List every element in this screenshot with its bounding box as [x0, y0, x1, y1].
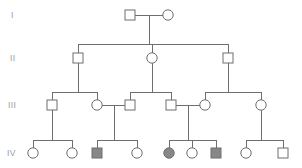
- female-symbol-III-2-unaffected[interactable]: [92, 100, 102, 110]
- gen-label-1: I: [11, 10, 14, 20]
- male-symbol-II-3-unaffected[interactable]: [223, 53, 233, 63]
- gen-label-3: III: [8, 100, 16, 110]
- pedigree-chart: IIIIIIIV: [0, 0, 302, 168]
- female-symbol-IV-4-unaffected[interactable]: [132, 148, 142, 158]
- gen-label-2: II: [10, 53, 16, 63]
- female-symbol-IV-5-affected[interactable]: [164, 148, 174, 158]
- pedigree-diagram: IIIIIIIV: [0, 0, 302, 168]
- female-symbol-IV-2-unaffected[interactable]: [67, 148, 77, 158]
- female-symbol-I-2-unaffected[interactable]: [163, 10, 173, 20]
- male-symbol-I-1-unaffected[interactable]: [125, 10, 135, 20]
- male-symbol-IV-7-affected[interactable]: [211, 148, 221, 158]
- connector-lines-layer: [33, 15, 283, 148]
- female-symbol-IV-8-unaffected[interactable]: [241, 148, 251, 158]
- female-symbol-III-5-unaffected[interactable]: [200, 100, 210, 110]
- male-symbol-III-4-unaffected[interactable]: [166, 100, 176, 110]
- female-symbol-III-6-unaffected[interactable]: [256, 100, 266, 110]
- male-symbol-III-1-unaffected[interactable]: [47, 100, 57, 110]
- male-symbol-II-1-unaffected[interactable]: [73, 53, 83, 63]
- female-symbol-IV-6-unaffected[interactable]: [187, 148, 197, 158]
- male-symbol-IV-3-affected[interactable]: [92, 148, 102, 158]
- individual-symbols-layer: [28, 10, 288, 158]
- female-symbol-II-2-unaffected[interactable]: [147, 53, 157, 63]
- female-symbol-IV-1-unaffected[interactable]: [28, 148, 38, 158]
- male-symbol-III-3-unaffected[interactable]: [125, 100, 135, 110]
- gen-label-4: IV: [7, 148, 16, 158]
- generation-labels-layer: IIIIIIIV: [7, 10, 16, 158]
- male-symbol-IV-9-unaffected[interactable]: [278, 148, 288, 158]
